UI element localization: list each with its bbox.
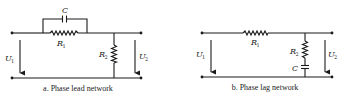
circuit-diagrams: C R 1 R 2 U 1 U 2 a. Phase lead network <box>0 0 341 95</box>
label-c: C <box>292 64 298 73</box>
capacitor-c-icon <box>301 66 309 69</box>
terminal-out-top <box>331 32 334 35</box>
terminal-out-bottom <box>331 76 334 79</box>
caption-phase-lead: a. Phase lead network <box>43 84 113 93</box>
terminal-out-top <box>140 32 143 35</box>
svg-text:2: 2 <box>296 51 299 57</box>
capacitor-c-icon <box>63 16 67 23</box>
resistor-r2-icon <box>303 41 308 58</box>
phase-lead-network: C R 1 R 2 U 1 U 2 a. Phase lead network <box>5 6 148 93</box>
terminal-in-bottom <box>11 77 14 80</box>
svg-text:1: 1 <box>202 54 205 60</box>
terminal-in-top <box>201 32 204 35</box>
caption-phase-lag: b. Phase lag network <box>232 83 299 92</box>
terminal-in-top <box>11 32 14 35</box>
svg-text:1: 1 <box>257 42 260 48</box>
svg-text:2: 2 <box>145 56 148 62</box>
resistor-r1-icon <box>50 31 78 35</box>
terminal-out-bottom <box>140 77 143 80</box>
resistor-r1-icon <box>243 31 268 35</box>
svg-text:2: 2 <box>334 54 337 60</box>
resistor-r2-icon <box>112 45 117 63</box>
phase-lag-network: R 1 R 2 C U 1 U 2 b. Phase lag network <box>196 31 337 92</box>
svg-text:1: 1 <box>63 43 66 49</box>
svg-text:2: 2 <box>105 54 108 60</box>
svg-text:1: 1 <box>11 58 14 64</box>
label-c: C <box>62 6 68 15</box>
terminal-in-bottom <box>201 76 204 79</box>
